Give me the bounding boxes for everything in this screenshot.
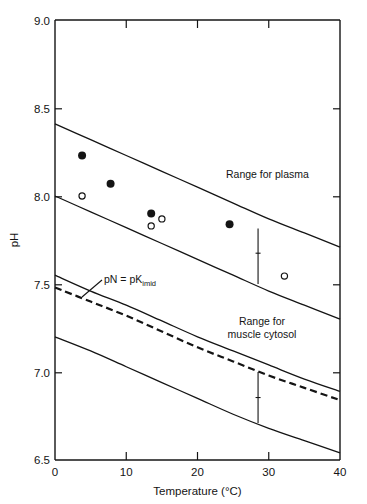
plot-frame bbox=[55, 20, 340, 460]
y-tick-label-6-5: 6.5 bbox=[34, 454, 50, 466]
annotation-range-for-line1: Range for bbox=[239, 315, 286, 327]
y-tick-label-7-0: 7.0 bbox=[34, 367, 50, 379]
series-pn-pk-imid-curve bbox=[55, 288, 340, 401]
data-point-filled-circle bbox=[107, 180, 115, 188]
data-point-open-circle bbox=[159, 216, 165, 222]
x-tick-labels: 0 10 20 30 40 bbox=[52, 466, 347, 478]
y-axis-title: pH bbox=[8, 233, 20, 248]
annotations-layer: Range for plasma Range for muscle cytoso… bbox=[82, 168, 309, 340]
annotation-pn-pk-imid-main: pN = pK bbox=[104, 273, 142, 285]
x-tick-label-30: 30 bbox=[262, 466, 275, 478]
x-tick-label-40: 40 bbox=[334, 466, 347, 478]
annotation-muscle-cytosol-line2: muscle cytosol bbox=[228, 328, 297, 340]
data-point-open-circle bbox=[79, 193, 85, 199]
y-tick-label-8-5: 8.5 bbox=[34, 103, 50, 115]
x-tick-label-0: 0 bbox=[52, 466, 58, 478]
annotation-pn-pk-imid-subscript: imid bbox=[142, 279, 156, 288]
y-axis-ticks-right bbox=[333, 109, 340, 373]
x-tick-label-20: 20 bbox=[191, 466, 204, 478]
y-tick-labels: 9.0 8.5 8.0 7.5 7.0 6.5 bbox=[34, 15, 50, 467]
x-axis-ticks bbox=[126, 452, 269, 460]
series-muscle-cytosol-range-lower bbox=[55, 337, 340, 453]
data-point-filled-circle bbox=[78, 152, 86, 160]
annotation-pn-pk-imid: pN = pKimid bbox=[104, 273, 156, 288]
annotation-range-for-plasma: Range for plasma bbox=[226, 168, 309, 180]
y-tick-label-9-0: 9.0 bbox=[34, 15, 50, 27]
chart-figure: 9.0 8.5 8.0 7.5 7.0 6.5 0 10 20 30 40 Te… bbox=[0, 0, 367, 504]
x-axis-title: Temperature (°C) bbox=[153, 485, 241, 497]
series-plasma-range-upper bbox=[55, 124, 340, 247]
data-point-open-circle bbox=[281, 273, 287, 279]
ph-vs-temperature-plot: 9.0 8.5 8.0 7.5 7.0 6.5 0 10 20 30 40 Te… bbox=[0, 0, 367, 504]
series-plasma-range-lower bbox=[55, 196, 340, 319]
x-tick-label-10: 10 bbox=[120, 466, 133, 478]
data-point-open-circle bbox=[148, 223, 154, 229]
y-tick-label-7-5: 7.5 bbox=[34, 279, 50, 291]
x-axis-ticks-top bbox=[126, 20, 269, 28]
data-point-filled-circle bbox=[226, 220, 234, 228]
data-point-filled-circle bbox=[147, 210, 155, 218]
series-muscle-cytosol-range-upper bbox=[55, 275, 340, 391]
y-tick-label-8-0: 8.0 bbox=[34, 191, 50, 203]
y-axis-ticks bbox=[55, 109, 62, 373]
